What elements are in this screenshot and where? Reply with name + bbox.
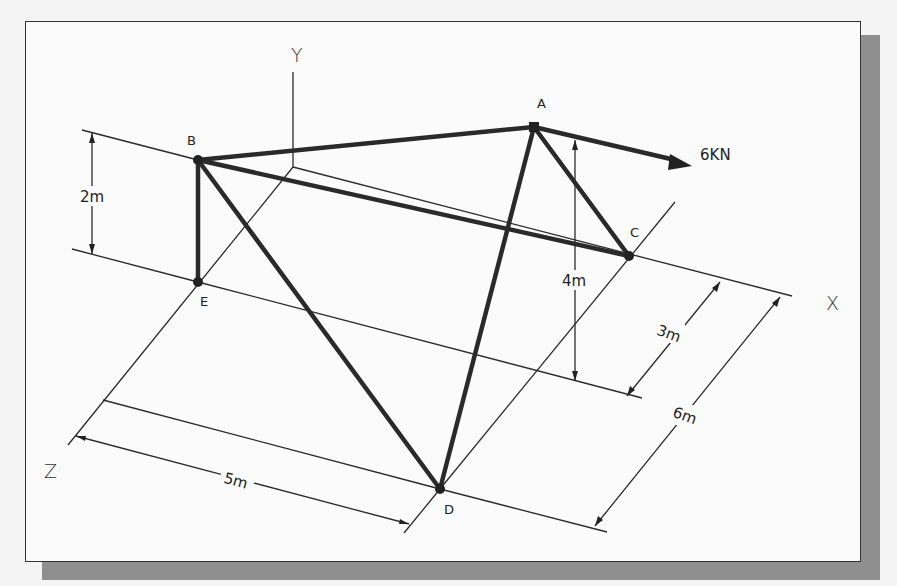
b-extension-line — [82, 130, 198, 160]
node-label-b: B — [187, 133, 196, 148]
node-c — [624, 251, 634, 261]
node-b — [193, 155, 203, 165]
node-e — [193, 277, 203, 287]
member-bd — [198, 160, 440, 489]
node-a — [529, 122, 539, 132]
x-axis-label: X — [826, 292, 839, 314]
arrowhead — [89, 244, 95, 254]
d-extension-down — [404, 489, 440, 533]
e-extension-line — [72, 249, 198, 282]
arrowhead — [89, 133, 95, 143]
ground-line-d — [440, 489, 607, 532]
x-axis — [293, 167, 792, 296]
arrowhead — [572, 140, 578, 150]
z-axis — [68, 167, 293, 445]
arrowhead — [399, 519, 409, 524]
y-axis-label: Y — [291, 44, 303, 66]
truss-diagram: Y X Z 2m 4m 3m 6m 5m 6KN — [0, 0, 897, 586]
node-label-e: E — [200, 294, 208, 309]
ground-line-z — [103, 400, 440, 489]
member-ab — [198, 127, 534, 160]
node-label-d: D — [444, 502, 454, 517]
load-arrowhead-icon — [668, 154, 692, 170]
member-bc — [198, 160, 629, 256]
z-axis-label: Z — [44, 460, 57, 482]
node-label-a: A — [537, 96, 546, 111]
node-label-c: C — [630, 225, 639, 240]
arrowhead — [76, 436, 86, 441]
dim-label-2m: 2m — [80, 188, 104, 206]
member-ad — [440, 127, 534, 489]
node-d — [435, 484, 445, 494]
dim-label-4m: 4m — [562, 272, 586, 290]
load-label: 6KN — [700, 146, 731, 164]
